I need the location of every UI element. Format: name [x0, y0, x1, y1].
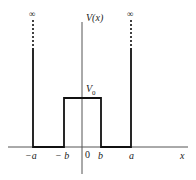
barrier-label-sub: 0: [92, 89, 96, 97]
tick-minus-b: − b: [55, 151, 69, 161]
tick-a: a: [129, 151, 134, 161]
barrier-label: V0: [86, 84, 96, 97]
left-infinity-label: ∞: [29, 10, 35, 19]
tick-b: b: [98, 151, 103, 161]
right-infinity-label: ∞: [127, 10, 133, 19]
y-axis-label: V(x): [86, 13, 103, 23]
tick-minus-a: −a: [25, 151, 37, 161]
tick-zero: 0: [85, 150, 90, 160]
x-axis-label: x: [180, 151, 184, 161]
